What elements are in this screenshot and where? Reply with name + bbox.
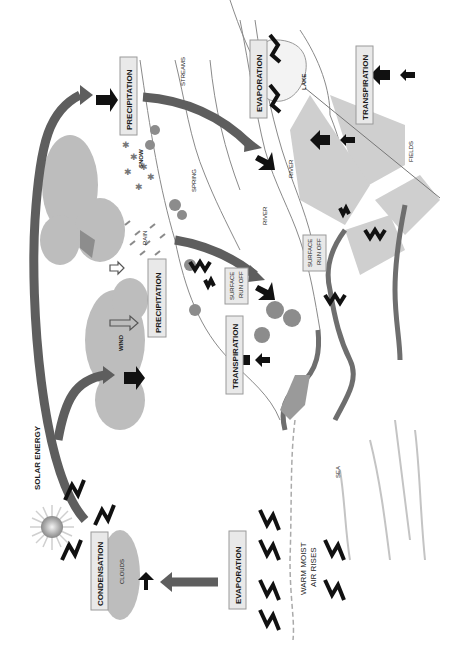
- svg-text:EVAPORATION: EVAPORATION: [255, 54, 264, 112]
- heat-wave-arrow-icon: [205, 280, 214, 286]
- water-cycle-diagram: ✱ ✱ ✱ ✱ ✱ ✱: [0, 0, 451, 664]
- label-air-rises: AIR RISES: [309, 547, 318, 587]
- svg-text:EVAPORATION: EVAPORATION: [234, 546, 243, 604]
- flow-arrow-icon: [80, 85, 93, 105]
- label-surface-run-off-2: SURFACE RUN OFF: [303, 235, 326, 271]
- svg-text:SURFACE: SURFACE: [229, 272, 235, 300]
- label-transpiration-trees: TRANSPIRATION: [226, 316, 243, 394]
- label-clouds: CLOUDS: [119, 559, 125, 584]
- heat-wave-arrow-icon: [325, 580, 344, 600]
- label-sea: SEA: [335, 466, 341, 478]
- label-evaporation-lake: EVAPORATION: [250, 40, 267, 118]
- label-evaporation-sea: EVAPORATION: [229, 531, 246, 609]
- heat-wave-arrow-icon: [260, 510, 279, 530]
- heat-wave-arrow-icon: [325, 295, 345, 303]
- snowflake-icon: ✱: [147, 172, 155, 182]
- snowflake-icon: ✱: [122, 140, 130, 150]
- cloud-middle: [85, 278, 148, 430]
- cloud-upper: [40, 135, 125, 265]
- flow-arrow-icon: [244, 135, 262, 152]
- coastline: [290, 420, 295, 640]
- label-condensation: CONDENSATION: [91, 532, 108, 610]
- label-warm-moist: WARM MOIST: [299, 542, 308, 595]
- svg-text:RUN OFF: RUN OFF: [238, 271, 244, 298]
- heat-wave-arrow-icon: [325, 540, 344, 560]
- svg-text:SURFACE: SURFACE: [307, 239, 313, 267]
- svg-text:CONDENSATION: CONDENSATION: [96, 541, 105, 606]
- label-transpiration-fields: TRANSPIRATION: [356, 46, 373, 124]
- label-rain: RAIN: [142, 231, 148, 245]
- heat-wave-arrow-icon: [190, 262, 210, 270]
- label-fields: FIELDS: [408, 141, 414, 162]
- heat-wave-arrow-icon: [260, 610, 279, 630]
- sun-icon: [30, 505, 74, 550]
- heat-wave-arrow-icon: [62, 540, 81, 560]
- label-solar-energy: SOLAR ENERGY: [33, 425, 42, 490]
- label-snow: SNOW: [138, 149, 144, 168]
- label-streams: STREAMS: [180, 57, 186, 86]
- snowflake-icon: ✱: [130, 152, 138, 162]
- svg-text:PRECIPITATION: PRECIPITATION: [154, 272, 163, 333]
- snowflake-icon: ✱: [135, 182, 143, 192]
- label-river-1: RIVER: [288, 159, 294, 178]
- label-wind: WIND: [118, 334, 124, 351]
- flow-arrow-icon: [248, 265, 265, 282]
- svg-text:PRECIPITATION: PRECIPITATION: [125, 69, 134, 130]
- heat-wave-arrow-icon: [260, 580, 279, 600]
- delta: [280, 375, 310, 420]
- label-river-2: RIVER: [262, 206, 268, 225]
- label-spring: SPRING: [191, 169, 197, 192]
- svg-text:TRANSPIRATION: TRANSPIRATION: [361, 55, 370, 120]
- heat-wave-arrow-icon: [340, 208, 349, 214]
- snowflake-icon: ✱: [124, 167, 132, 177]
- trees: [145, 125, 301, 343]
- sea-waves: [340, 420, 425, 560]
- label-precipitation-rain: PRECIPITATION: [148, 259, 166, 337]
- label-precipitation-snow: PRECIPITATION: [120, 57, 137, 135]
- heat-wave-arrow-icon: [95, 505, 114, 525]
- svg-text:RUN OFF: RUN OFF: [316, 238, 322, 265]
- wind-arrow-icon: [110, 262, 124, 274]
- flow-arrow-icon: [160, 572, 172, 592]
- label-surface-run-off-1: SURFACE RUN OFF: [225, 268, 248, 304]
- label-lake: LAKE: [301, 74, 307, 90]
- svg-text:TRANSPIRATION: TRANSPIRATION: [231, 324, 240, 389]
- heat-wave-arrow-icon: [260, 540, 279, 560]
